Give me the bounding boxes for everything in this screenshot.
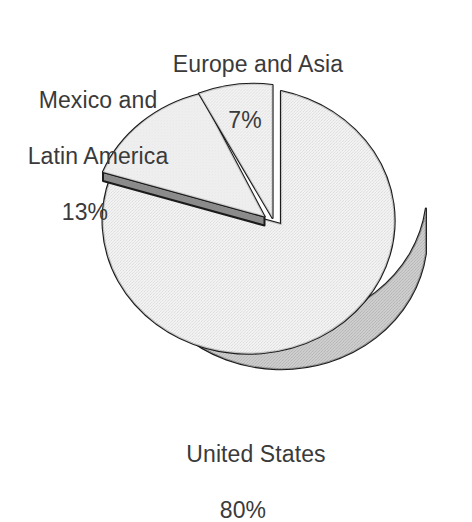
slice-value-united-states: 80% — [130, 496, 356, 522]
slice-label-mexico-line2: Latin America — [28, 143, 169, 169]
slice-label-united-states: United States 80% — [130, 412, 356, 522]
slice-label-europe-and-asia-text: Europe and Asia — [173, 51, 343, 77]
slice-label-united-states-text: United States — [186, 441, 325, 467]
slice-label-mexico-and-latin-america: Mexico and Latin America 13% — [0, 58, 180, 282]
slice-value-mexico-and-latin-america: 13% — [0, 198, 180, 226]
slice-label-mexico-line1: Mexico and — [39, 87, 158, 113]
